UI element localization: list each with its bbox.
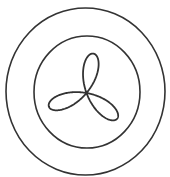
figure-canvas	[0, 0, 170, 177]
flower-icon	[49, 54, 118, 121]
figure-svg	[0, 0, 170, 177]
